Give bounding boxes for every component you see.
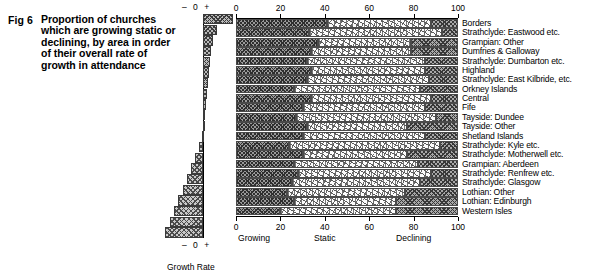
axis-tick [325, 14, 326, 18]
stacked-bar-row [236, 150, 458, 159]
bar-segment-declining [407, 122, 458, 131]
bar-segment-declining [418, 160, 458, 169]
growth-rate-row [160, 142, 234, 152]
bar-segment-growing [236, 85, 294, 94]
growth-rate-row [160, 206, 234, 216]
growth-rate-row [160, 185, 234, 195]
bar-segment-growing [236, 197, 294, 206]
bar-segment-static [287, 188, 405, 197]
axis-tick-label: 60 [364, 222, 373, 232]
bar-segment-growing [236, 160, 294, 169]
growth-rate-bar-negative [170, 217, 203, 227]
bar-segment-static [303, 150, 407, 159]
axis-tick-label: 100 [451, 222, 465, 232]
growth-rate-bar-positive [203, 67, 209, 77]
stacked-bar-row [236, 103, 458, 112]
bar-segment-static [311, 47, 411, 56]
stacked-bar-row [236, 188, 458, 197]
bar-segment-static [303, 132, 425, 141]
axis-tick [236, 217, 237, 221]
bar-segment-declining [431, 94, 458, 103]
growth-rate-bar-positive [203, 46, 211, 56]
growth-rate-bar-negative [187, 174, 203, 184]
growth-rate-row [160, 46, 234, 56]
growth-rate-bar-positive [203, 78, 208, 88]
legend-label-growing: Growing [238, 233, 270, 243]
growth-rate-row [160, 163, 234, 173]
axis-tick-label: 0 [234, 3, 239, 13]
bar-segment-growing [236, 28, 309, 37]
growth-rate-bar-negative [178, 195, 203, 205]
stacked-bar-row [236, 178, 458, 187]
stacked-bar-row [236, 132, 458, 141]
bar-segment-growing [236, 141, 289, 150]
bar-segment-growing [236, 103, 303, 112]
bar-segment-declining [396, 197, 458, 206]
axis-tick-label: 80 [409, 3, 418, 13]
bar-segment-growing [236, 150, 303, 159]
stacked-bar-row [236, 113, 458, 122]
axis-tick-label: 40 [320, 222, 329, 232]
axis-tick-label: 40 [320, 3, 329, 13]
stacked-bar-row [236, 141, 458, 150]
axis-tick [369, 14, 370, 18]
bar-segment-declining [436, 113, 458, 122]
stacked-bars-plot [236, 19, 458, 216]
axis-tick [280, 14, 281, 18]
bar-segment-declining [407, 150, 458, 159]
bar-segment-static [292, 178, 421, 187]
axis-tick-label: 80 [409, 222, 418, 232]
growth-rate-row [160, 89, 234, 99]
figure-page: Fig 6 Proportion of churches which are g… [0, 0, 597, 280]
axis-tick [458, 14, 459, 18]
bar-segment-declining [411, 38, 458, 47]
growth-rate-bar-positive [203, 57, 210, 67]
growth-rate-bar-negative [174, 206, 203, 216]
bar-segment-declining [431, 19, 458, 28]
bar-segment-growing [236, 113, 296, 122]
axis-tick [458, 217, 459, 221]
bar-segment-static [294, 197, 396, 206]
bar-segment-static [318, 38, 411, 47]
growth-rate-bar-positive [203, 25, 217, 35]
bar-segment-declining [440, 141, 458, 150]
bar-segment-static [327, 19, 431, 28]
category-labels: BordersStrathclyde: Eastwood etc.Grampia… [462, 19, 597, 216]
growth-rate-top-scale: – 0 + [182, 2, 211, 12]
bar-segment-declining [442, 28, 458, 37]
stacked-bar-row [236, 38, 458, 47]
growth-rate-row [160, 227, 234, 237]
bar-segment-growing [236, 94, 311, 103]
growth-rate-row [160, 67, 234, 77]
stacked-bar-row [236, 47, 458, 56]
bar-segment-static [309, 28, 442, 37]
bar-segment-declining [425, 132, 458, 141]
stacked-bar-panel: 020406080100 020406080100 BordersStrathc… [236, 0, 597, 280]
figure-caption-block: Fig 6 Proportion of churches which are g… [8, 14, 178, 71]
bar-segment-growing [236, 178, 292, 187]
bar-segment-growing [236, 122, 307, 131]
bar-segment-static [311, 66, 424, 75]
axis-tick-label: 60 [364, 3, 373, 13]
growth-rate-bar-negative [202, 131, 204, 141]
bar-segment-declining [431, 169, 458, 178]
growth-rate-row [160, 25, 234, 35]
growth-rate-row [160, 99, 234, 109]
bar-segment-declining [411, 47, 458, 56]
stacked-bar-row [236, 28, 458, 37]
bar-segment-growing [236, 75, 307, 84]
bar-segment-static [294, 160, 418, 169]
growth-rate-bar-negative [183, 185, 204, 195]
growth-rate-bar-positive [203, 121, 205, 131]
legend-label-declining: Declining [396, 233, 431, 243]
axis-tick-label: 100 [451, 3, 465, 13]
figure-number: Fig 6 [8, 14, 33, 71]
bar-segment-growing [236, 188, 287, 197]
growth-rate-axis-title: Growth Rate [167, 262, 215, 272]
bar-segment-declining [420, 85, 458, 94]
growth-rate-row [160, 110, 234, 120]
stacked-bar-row [236, 197, 458, 206]
figure-caption-text: Proportion of churches which are growing… [41, 14, 178, 71]
legend-label-static: Static [314, 233, 336, 243]
bar-segment-growing [236, 169, 298, 178]
